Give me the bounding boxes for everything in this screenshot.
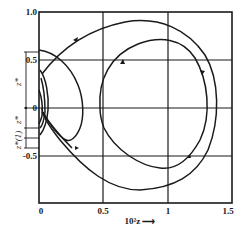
curve-outer-orbit [42, 21, 217, 190]
curve-left-loop [39, 50, 83, 141]
arrow-marker-icon [200, 70, 205, 75]
x-tick-label: 1.5 [222, 206, 234, 216]
y-tick-label: 0.5 [26, 55, 38, 65]
curve-spiral-d [42, 112, 72, 148]
y-tick-label: -0.5 [23, 151, 38, 161]
x-tick-label: 1 [166, 206, 171, 216]
grid [39, 12, 232, 203]
annotation-z-star-upper: z* [13, 78, 23, 88]
trajectories [39, 21, 217, 190]
x-tick-label: 0.5 [97, 206, 109, 216]
phase-plot: 1.0 0.5 0 -0.5 0 0.5 1 1.5 10²z ⟶ z* z* … [0, 0, 245, 232]
x-tick-label: 0 [39, 206, 44, 216]
curve-inner-orbit [100, 40, 207, 169]
dimension-annotations: z* z* z*(1) [13, 52, 39, 150]
y-tick-label: 1.0 [26, 7, 38, 17]
arrow-marker-icon [75, 146, 79, 150]
x-axis-labels: 0 0.5 1 1.5 [39, 206, 234, 216]
annotation-z-star-1: z*(1) [13, 131, 23, 151]
annotation-z-star-lower: z* [13, 116, 23, 126]
x-axis-title: 10²z ⟶ [125, 216, 156, 226]
